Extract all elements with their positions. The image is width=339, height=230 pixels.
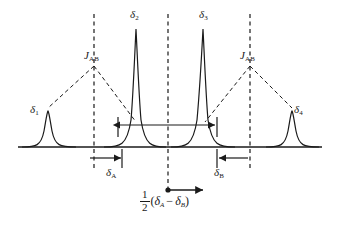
j-coupling-connectors (48, 66, 292, 122)
fraction-numerator: 1 (140, 189, 150, 201)
peak-trace-2 (104, 29, 166, 147)
dashed-reference-lines (94, 14, 250, 190)
formula-delta-b: δ (175, 194, 181, 208)
peak-label-delta1: δ1 (30, 104, 39, 115)
formula-delta-b-sub: B (181, 201, 185, 209)
j-right-connector-inner (205, 66, 250, 122)
j-left-connector-inner (94, 66, 136, 122)
formula-expression: (δA−δB) (151, 194, 190, 209)
nmr-ab-quartet-figure: δ1 δ2 δ3 δ4 JAB JAB δA δB 1 2 (δA−δB) (0, 0, 339, 230)
one-half-fraction: 1 2 (140, 189, 150, 213)
paren-close: ) (185, 194, 189, 208)
center-offset-formula: 1 2 (δA−δB) (140, 189, 189, 213)
peak-label-delta3: δ3 (199, 9, 208, 20)
peak-trace-4 (266, 111, 319, 147)
formula-operator: − (164, 194, 175, 208)
shift-label-delta-a: δA (106, 167, 116, 178)
peak-traces (22, 29, 319, 147)
fraction-denominator: 2 (140, 202, 150, 214)
peak-label-delta4: δ4 (294, 104, 303, 115)
peak-label-delta2: δ2 (130, 9, 139, 20)
coupling-label-j-right: JAB (240, 50, 255, 61)
delta-b-measure (217, 149, 248, 168)
coupling-label-j-left: JAB (84, 50, 99, 61)
shift-label-delta-b: δB (214, 167, 224, 178)
j-left-connector-outer (48, 66, 94, 108)
peak-trace-1 (22, 111, 76, 147)
formula-delta-a-sub: A (160, 201, 164, 209)
peak-trace-3 (171, 29, 235, 147)
j-right-connector-outer (250, 66, 292, 108)
